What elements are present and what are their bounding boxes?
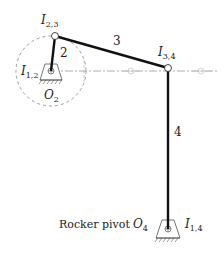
label-i14: I1,4 <box>184 217 202 233</box>
joint-i23 <box>52 33 59 40</box>
label-rocker-pivot: Rocker pivot <box>59 218 130 231</box>
label-i34: I3,4 <box>157 45 175 61</box>
linkage-diagram: I2,3 2 3 I3,4 I1,2 O2 4 Rocker pivot O4 … <box>0 0 223 264</box>
faint-arrow-mark-2 <box>192 68 212 74</box>
faint-arrow-mark-1 <box>122 68 140 74</box>
label-o2: O2 <box>44 88 59 104</box>
label-o4: O4 <box>133 217 148 233</box>
label-link-4: 4 <box>174 125 182 139</box>
label-i23: I2,3 <box>40 13 58 29</box>
link-3 <box>55 36 168 68</box>
label-link-2: 2 <box>60 46 68 60</box>
label-link-3: 3 <box>113 34 121 48</box>
joint-i34 <box>165 65 172 72</box>
label-i12: I1,2 <box>20 64 38 80</box>
